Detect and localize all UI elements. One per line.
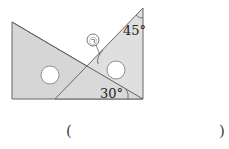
answer-open-paren: ( bbox=[66, 122, 72, 140]
set-square-diagram: ㉠ 45° 30° bbox=[0, 0, 229, 110]
hole-right bbox=[107, 61, 125, 79]
triangle-45-degree bbox=[55, 8, 143, 99]
unknown-angle-label: ㉠ bbox=[89, 37, 97, 46]
hole-left bbox=[41, 66, 59, 84]
angle-label-45: 45° bbox=[123, 23, 146, 38]
angle-label-30: 30° bbox=[100, 86, 123, 101]
answer-close-paren: ) bbox=[219, 122, 225, 140]
